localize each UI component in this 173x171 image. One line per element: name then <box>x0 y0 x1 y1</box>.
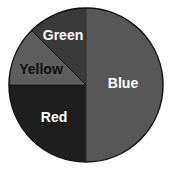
label-red: Red <box>41 109 67 125</box>
label-blue: Blue <box>108 75 139 91</box>
label-yellow: Yellow <box>19 61 63 77</box>
label-green: Green <box>43 27 83 43</box>
pie-chart: Blue Red Yellow Green <box>0 0 173 171</box>
